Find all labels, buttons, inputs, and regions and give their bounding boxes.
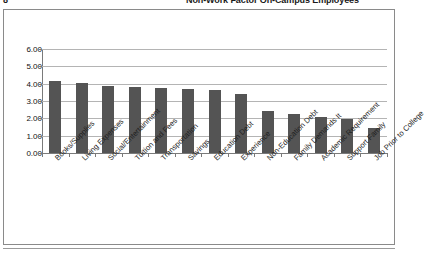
bottom-divider — [3, 248, 395, 249]
bar — [49, 81, 61, 153]
y-tick-label: 1.00 — [8, 131, 42, 140]
plot-area — [42, 49, 387, 153]
chart-frame: 6.005.004.003.002.001.000.00 Books/Suppl… — [3, 9, 395, 245]
x-axis-labels: Books/SuppliesLiving ExpensesSocial/Ente… — [42, 156, 397, 244]
gridline — [42, 84, 387, 85]
y-tick-label: 3.00 — [8, 97, 42, 106]
plot-wrapper: 6.005.004.003.002.001.000.00 Books/Suppl… — [4, 10, 396, 246]
page-number: 8 — [3, 0, 8, 5]
y-tick-label: 0.00 — [8, 149, 42, 158]
y-tick-label: 2.00 — [8, 114, 42, 123]
chart-title: Non-Work Factor On-Campus Employees — [186, 0, 359, 5]
gridline — [42, 66, 387, 67]
clipped-title-strip: 8 Non-Work Factor On-Campus Employees — [0, 0, 401, 9]
y-axis-labels: 6.005.004.003.002.001.000.00 — [4, 49, 42, 153]
y-tick-label: 5.00 — [8, 62, 42, 71]
y-tick-label: 6.00 — [8, 45, 42, 54]
y-tick-label: 4.00 — [8, 79, 42, 88]
gridline — [42, 49, 387, 50]
